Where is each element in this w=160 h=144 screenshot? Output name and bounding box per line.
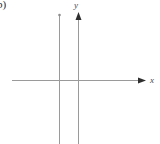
x-axis-label: x bbox=[150, 76, 154, 85]
coordinate-axes-figure: b) y x bbox=[0, 0, 160, 144]
y-axis-label: y bbox=[74, 1, 78, 10]
axes-drawing bbox=[0, 0, 160, 144]
y-axis-arrow-icon bbox=[76, 12, 82, 20]
figure-corner-label: b) bbox=[0, 0, 6, 10]
x-axis-arrow-icon bbox=[138, 78, 146, 84]
vertical-line-left-cap bbox=[58, 14, 61, 17]
